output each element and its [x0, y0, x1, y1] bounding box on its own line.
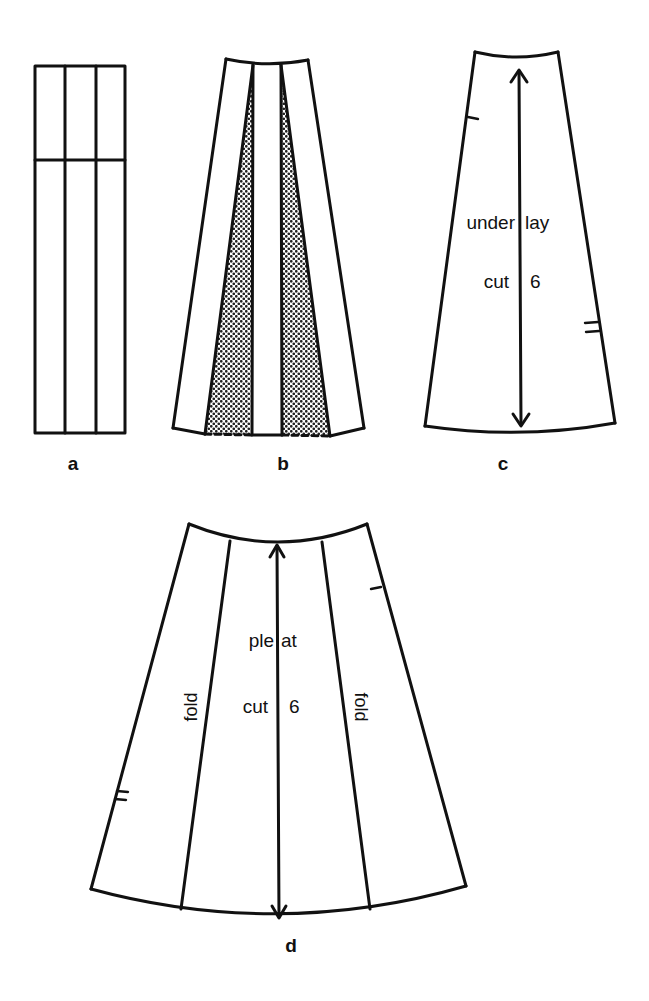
- panel-b-center-line: [281, 65, 282, 435]
- skirt-pattern-diagram: a b un: [0, 0, 649, 1001]
- panel-c-waistline: [475, 52, 558, 57]
- panel-b: b: [173, 59, 364, 474]
- panel-b-waistline: [226, 59, 308, 64]
- fold-label-left: fold: [181, 692, 201, 721]
- panel-b-hem-right: [330, 428, 364, 436]
- fold-line-left: [181, 541, 230, 909]
- panel-b-hem-dashed-right: [282, 435, 330, 436]
- panel-c-side-right: [558, 52, 615, 423]
- double-notch-mark: [585, 322, 598, 323]
- grainline-arrow-icon: [270, 545, 286, 918]
- panel-d-side-left: [91, 524, 189, 889]
- panel-c-text-lay: lay: [525, 212, 550, 233]
- panel-d: ple at cut 6 fold fold d: [91, 524, 466, 956]
- panel-c-text-cut: cut: [484, 271, 510, 292]
- panel-d-text-ple: ple: [249, 630, 274, 651]
- panel-c-label: c: [498, 453, 509, 474]
- panel-d-text-count: 6: [289, 696, 300, 717]
- double-notch-mark: [117, 791, 128, 792]
- single-notch-mark: [468, 117, 478, 119]
- panel-d-label: d: [285, 935, 297, 956]
- double-notch-mark: [115, 799, 126, 800]
- panel-c-side-left: [425, 52, 475, 426]
- fold-line-right: [322, 542, 370, 909]
- panel-d-waistline: [189, 524, 367, 542]
- panel-a-outline: [35, 66, 125, 433]
- panel-b-hem-dashed-left: [205, 434, 252, 435]
- double-notch-mark: [586, 331, 599, 332]
- panel-d-side-right: [367, 524, 466, 886]
- panel-b-center-line: [252, 65, 253, 435]
- panel-b-label: b: [277, 453, 289, 474]
- panel-c-text-count: 6: [530, 271, 541, 292]
- panel-c-text-under: under: [466, 212, 515, 233]
- grainline-arrow-icon: [511, 70, 529, 426]
- fold-label-right: fold: [351, 692, 371, 721]
- panel-b-hem-left: [173, 428, 205, 434]
- panel-a: a: [35, 66, 125, 474]
- panel-c: under lay cut 6 c: [425, 52, 615, 474]
- single-notch-mark: [371, 587, 381, 589]
- panel-a-label: a: [68, 453, 79, 474]
- panel-d-text-cut: cut: [243, 696, 269, 717]
- panel-d-text-at: at: [281, 630, 298, 651]
